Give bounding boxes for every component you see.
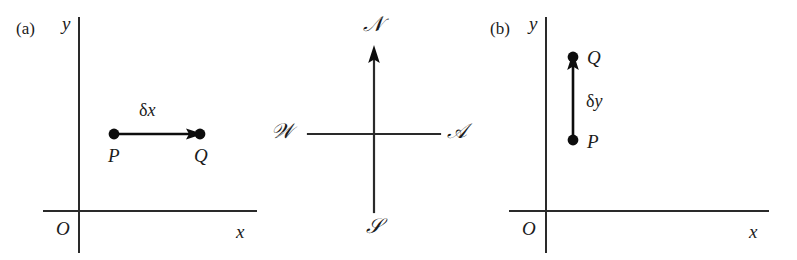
panel-a-tag: (a) [16,20,35,37]
panel-b-point-p-dot [568,135,579,146]
panel-compass: 𝒩 𝒮 𝒲 𝒜 [262,0,492,260]
panel-a-delta-variable: x [147,100,155,120]
panel-b-point-q-label: Q [587,48,601,67]
panel-b-y-axis-label: y [529,14,537,33]
panel-a-x-axis-label: x [236,222,244,241]
panel-a-y-axis-label: y [62,14,70,33]
panel-a-point-p-label: P [108,146,120,165]
panel-a-origin-label: O [56,219,70,238]
panel-b-origin-label: O [522,219,536,238]
panel-a-graphics [0,0,270,260]
compass-east-label: 𝒜 [447,121,467,142]
panel-a-point-p-dot [109,129,120,140]
panel-a-point-q-label: Q [194,146,208,165]
panel-b-point-p-label: P [587,132,599,151]
compass-west-label: 𝒲 [271,121,293,142]
panel-b-tag: (b) [490,20,510,37]
panel-b-delta-y-label: δy [586,92,602,110]
panel-a: (a) y x O P Q δx [0,0,270,260]
panel-a-delta-x-label: δx [139,101,155,119]
panel-b-point-q-dot [568,52,579,63]
panel-b-x-axis-label: x [749,222,757,241]
figure-container: (a) y x O P Q δx 𝒩 𝒮 𝒲 𝒜 (b) y x O [0,0,797,260]
compass-north-label: 𝒩 [363,14,383,35]
compass-south-label: 𝒮 [366,216,382,237]
panel-a-point-q-dot [195,129,206,140]
panel-b-delta-variable: y [594,91,602,111]
panel-b: (b) y x O P Q δy [488,0,797,260]
